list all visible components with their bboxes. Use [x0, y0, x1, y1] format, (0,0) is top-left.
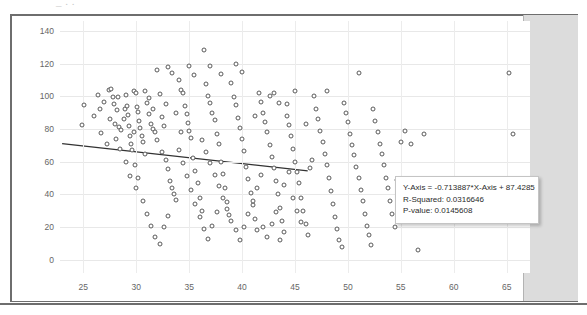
scatter-point [257, 91, 262, 96]
scatter-point [123, 92, 128, 97]
x-axis-tick-label: 60 [449, 282, 458, 292]
scatter-point [324, 163, 329, 168]
scatter-point [367, 233, 372, 238]
scatter-point [212, 118, 217, 123]
scatter-point [282, 182, 287, 187]
y-axis-tick-label: 40 [45, 189, 54, 199]
scatter-point [286, 123, 291, 128]
scatter-point [326, 176, 331, 181]
scatter-point [165, 213, 170, 218]
scatter-point [163, 158, 168, 163]
scatter-point [176, 148, 181, 153]
scatter-point [115, 108, 120, 113]
gridline-vertical [401, 21, 402, 273]
scatter-point [235, 115, 240, 120]
x-axis-tick-label: 50 [343, 282, 352, 292]
scatter-point [146, 111, 151, 116]
scatter-point [165, 167, 170, 172]
scatter-point [134, 91, 139, 96]
scatter-point [373, 118, 378, 123]
scatter-point [409, 141, 414, 146]
y-axis-tick-label: 0 [49, 255, 54, 265]
scatter-point [252, 113, 257, 118]
scatter-point [210, 110, 215, 115]
scatter-point [186, 121, 191, 126]
scatter-point [180, 161, 185, 166]
scatter-point [339, 244, 344, 249]
scatter-point [280, 218, 285, 223]
scatter-point [127, 134, 132, 139]
scatter-point [273, 210, 278, 215]
scatter-point [180, 91, 185, 96]
scatter-point [269, 154, 274, 159]
scatter-point [197, 215, 202, 220]
scatter-point [104, 142, 109, 147]
scatter-point [384, 176, 389, 181]
x-axis-tick-label: 65 [502, 282, 511, 292]
scatter-point [284, 113, 289, 118]
scatter-point [214, 210, 219, 215]
plot-area: 020406080100120140253035404550556065 [60, 21, 530, 273]
scatter-point [185, 174, 190, 179]
scatter-point [116, 94, 121, 99]
scatter-point [293, 159, 298, 164]
scatter-point [386, 185, 391, 190]
scatter-point [187, 63, 192, 68]
scatter-point [269, 221, 274, 226]
scatter-point [208, 64, 213, 69]
scatter-point [250, 199, 255, 204]
scatter-point [286, 169, 291, 174]
scatter-point [320, 140, 325, 145]
scatter-point [210, 223, 215, 228]
scatter-point [136, 175, 141, 180]
gridline-vertical [83, 21, 84, 273]
scatter-point [277, 100, 282, 105]
scatter-point [168, 179, 173, 184]
scatter-point [199, 208, 204, 213]
scatter-point [191, 156, 196, 161]
scatter-point [242, 225, 247, 230]
scatter-point [265, 235, 270, 240]
scatter-point [165, 64, 170, 69]
scatter-point [229, 81, 234, 86]
x-axis-tick-label: 30 [131, 282, 140, 292]
scatter-point [206, 236, 211, 241]
scatter-point [218, 159, 223, 164]
scatter-point [138, 126, 143, 131]
scatter-point [140, 199, 145, 204]
scatter-point [273, 179, 278, 184]
scatter-point [132, 130, 137, 135]
scatter-point [322, 151, 327, 156]
scatter-point [151, 107, 156, 112]
scatter-point [337, 238, 342, 243]
scatter-point [278, 205, 283, 210]
annotation-r-squared: R-Squared: 0.0316646 [403, 194, 531, 206]
y-axis-tick-label: 100 [40, 91, 54, 101]
scatter-point [136, 110, 141, 115]
scatter-point [240, 70, 245, 75]
scatter-point [172, 192, 177, 197]
scatter-point [216, 141, 221, 146]
scatter-point [316, 117, 321, 122]
scatter-point [263, 120, 268, 125]
scatter-point [318, 128, 323, 133]
scatter-point [350, 143, 355, 148]
scatter-point [307, 166, 312, 171]
scatter-point [225, 200, 230, 205]
scatter-point [250, 203, 255, 208]
scatter-point [110, 95, 115, 100]
scatter-point [204, 149, 209, 154]
scatter-point [282, 229, 287, 234]
scatter-point [208, 161, 213, 166]
scatter-point [221, 171, 226, 176]
scatter-point [135, 104, 140, 109]
scatter-point [189, 135, 194, 140]
scatter-point [111, 101, 116, 106]
x-axis-tick-label: 25 [79, 282, 88, 292]
scatter-point [182, 104, 187, 109]
x-axis-tick-label: 40 [237, 282, 246, 292]
scatter-point [176, 77, 181, 82]
scatter-point [309, 158, 314, 163]
scatter-point [201, 226, 206, 231]
scatter-point [381, 163, 386, 168]
